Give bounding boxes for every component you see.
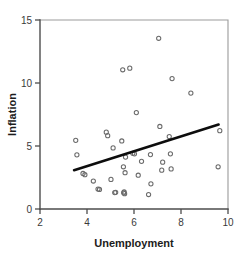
data-point (157, 36, 161, 40)
y-tick-label: 5 (26, 141, 32, 152)
plot-svg: 051015246810 UnemploymentInflation (0, 0, 245, 259)
x-tick-label: 2 (37, 217, 43, 228)
data-point (148, 152, 152, 156)
data-point (136, 173, 140, 177)
data-point (167, 134, 171, 138)
data-point (128, 66, 132, 70)
data-point (218, 129, 222, 133)
data-point (158, 124, 162, 128)
data-point (216, 165, 220, 169)
data-point (109, 177, 113, 181)
axis-titles: UnemploymentInflation (6, 93, 174, 249)
y-tick-label: 10 (21, 78, 33, 89)
data-point (91, 179, 95, 183)
data-point (123, 171, 127, 175)
plot-frame (40, 20, 228, 209)
data-point (121, 68, 125, 72)
data-point (146, 192, 150, 196)
trend-line (74, 125, 219, 171)
data-point (75, 153, 79, 157)
plot-axes (40, 20, 228, 209)
x-axis-title: Unemployment (94, 237, 174, 249)
axis-tick-labels: 051015246810 (21, 15, 234, 228)
data-point (74, 138, 78, 142)
data-point (149, 182, 153, 186)
plot-frame-border (40, 20, 228, 209)
data-point (170, 76, 174, 80)
axis-ticks (35, 20, 228, 214)
y-tick-label: 15 (21, 15, 33, 26)
data-point (169, 167, 173, 171)
trend-line-segment (74, 125, 219, 171)
data-point (111, 146, 115, 150)
data-point (161, 160, 165, 164)
data-point (120, 139, 124, 143)
y-tick-label: 0 (26, 204, 32, 215)
data-point (134, 111, 138, 115)
x-tick-label: 10 (222, 217, 234, 228)
data-point (139, 159, 143, 163)
x-tick-label: 6 (131, 217, 137, 228)
data-point (160, 168, 164, 172)
y-axis-title: Inflation (6, 93, 18, 136)
x-tick-label: 8 (178, 217, 184, 228)
data-points (74, 36, 222, 196)
data-point (189, 91, 193, 95)
x-tick-label: 4 (84, 217, 90, 228)
scatter-chart: 051015246810 UnemploymentInflation (0, 0, 245, 259)
data-point (121, 165, 125, 169)
data-point (168, 152, 172, 156)
